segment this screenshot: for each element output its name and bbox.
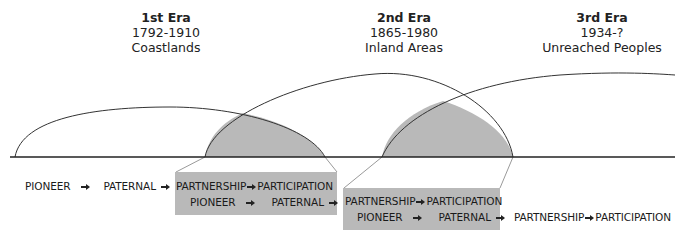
era-3-name: 3rd Era xyxy=(522,10,682,25)
stage-partnership: PARTNERSHIP xyxy=(176,180,246,192)
era-3-title: 3rd Era 1934-? Unreached Peoples xyxy=(522,10,682,55)
stage-participation: PARTICIPATION xyxy=(257,180,333,192)
overlap-region-1 xyxy=(205,113,325,157)
era-1-years: 1792-1910 xyxy=(86,25,246,40)
stage-participation: PARTICIPATION xyxy=(426,195,502,207)
era-3-years: 1934-? xyxy=(522,25,682,40)
era-2-stage-row-start: PIONEERPATERNAL xyxy=(190,196,339,208)
arrow-icon xyxy=(81,183,90,191)
arrow-icon xyxy=(247,183,256,191)
arrow-icon xyxy=(413,214,422,222)
era-1-title: 1st Era 1792-1910 Coastlands xyxy=(86,10,246,55)
arrow-icon xyxy=(161,183,170,191)
connector-line xyxy=(176,157,205,172)
era-3-stage-row: PIONEERPATERNALPARTNERSHIPPARTICIPATION xyxy=(357,211,671,223)
era-2-region: Inland Areas xyxy=(324,40,484,55)
transition-box-1 xyxy=(175,172,337,215)
stage-partnership: PARTNERSHIP xyxy=(345,195,415,207)
stage-pioneer: PIONEER xyxy=(190,196,235,208)
arrow-icon xyxy=(329,199,338,207)
connector-line xyxy=(500,157,513,188)
stage-pioneer: PIONEER xyxy=(357,211,402,223)
era-1-region: Coastlands xyxy=(86,40,246,55)
era-3-region: Unreached Peoples xyxy=(522,40,682,55)
era-2-name: 2nd Era xyxy=(324,10,484,25)
era-2-stage-row-end: PARTNERSHIPPARTICIPATION xyxy=(345,195,502,207)
arrow-icon xyxy=(496,214,505,222)
era-1-stage-row: PIONEERPATERNALPARTNERSHIPPARTICIPATION xyxy=(25,180,333,192)
era-2-years: 1865-1980 xyxy=(324,25,484,40)
overlap-region-2 xyxy=(382,101,513,157)
era-2-title: 2nd Era 1865-1980 Inland Areas xyxy=(324,10,484,55)
era-1-name: 1st Era xyxy=(86,10,246,25)
arrow-icon xyxy=(585,214,594,222)
connector-line xyxy=(344,157,382,188)
arrow-icon xyxy=(416,198,425,206)
stage-pioneer: PIONEER xyxy=(25,180,70,192)
arrow-icon xyxy=(246,199,255,207)
stage-paternal: PATERNAL xyxy=(438,211,490,223)
stage-participation: PARTICIPATION xyxy=(595,211,671,223)
stage-paternal: PATERNAL xyxy=(271,196,323,208)
stage-paternal: PATERNAL xyxy=(103,180,155,192)
connector-line xyxy=(325,157,337,172)
stage-partnership: PARTNERSHIP xyxy=(514,211,584,223)
